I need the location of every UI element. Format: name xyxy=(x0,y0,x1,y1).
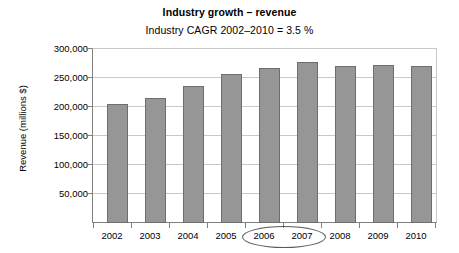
y-tick-label: 200,000 xyxy=(28,102,88,112)
bar-2007 xyxy=(297,62,318,223)
bar-2008 xyxy=(335,66,356,223)
bar-2010 xyxy=(411,66,432,223)
y-tick-label: 150,000 xyxy=(28,131,88,141)
x-tick-mark xyxy=(169,223,170,228)
bar-2003 xyxy=(145,98,166,223)
chart-title: Industry growth – revenue xyxy=(0,6,459,18)
bar-2006 xyxy=(259,68,280,223)
chart-subtitle: Industry CAGR 2002–2010 = 3.5 % xyxy=(0,24,459,36)
bar-2005 xyxy=(221,74,242,223)
x-tick-mark xyxy=(435,223,436,228)
x-tick-label-2010: 2010 xyxy=(391,230,441,241)
plot-area xyxy=(92,48,437,223)
x-tick-mark xyxy=(359,223,360,228)
x-tick-mark xyxy=(93,223,94,228)
bar-2002 xyxy=(107,104,128,223)
bar-2009 xyxy=(373,65,394,223)
y-tick-label: 50,000 xyxy=(28,189,88,199)
x-tick-mark xyxy=(245,223,246,228)
x-tick-mark xyxy=(321,223,322,228)
highlight-ellipse-2006-2007 xyxy=(242,226,326,248)
industry-growth-revenue-chart: Industry growth – revenue Industry CAGR … xyxy=(0,0,459,253)
x-tick-mark xyxy=(131,223,132,228)
y-tick-label: 300,000 xyxy=(28,44,88,54)
bar-2004 xyxy=(183,86,204,223)
y-axis-title: Revenue (millions $) xyxy=(17,44,28,214)
y-tick-label: 250,000 xyxy=(28,73,88,83)
x-tick-mark xyxy=(207,223,208,228)
x-tick-mark xyxy=(397,223,398,228)
y-tick-label: 100,000 xyxy=(28,160,88,170)
